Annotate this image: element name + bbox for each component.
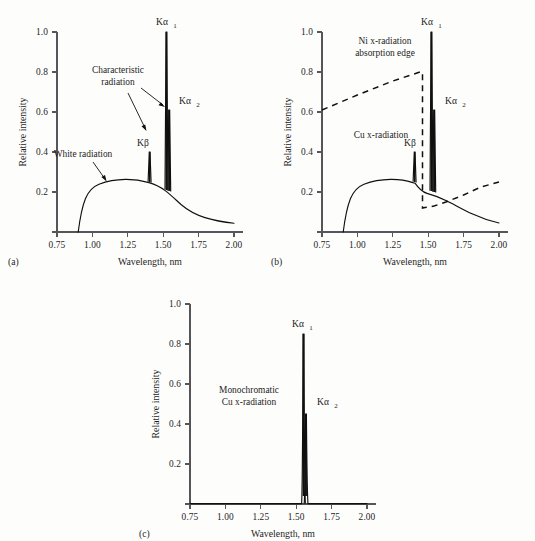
x-tick-label: 0.75	[182, 512, 199, 522]
k-beta-text: Kβ	[404, 137, 416, 148]
panel-b-k-alpha1-peak	[430, 32, 433, 191]
k-alpha2-subscript: 2	[462, 101, 466, 109]
panel-b-x-tick-labels: 0.75 1.00 1.25 1.50 1.75 2.00	[314, 240, 508, 250]
panel-c-k-alpha1-peak	[302, 334, 306, 504]
x-tick-label: 1.00	[84, 240, 101, 250]
panel-b-x-ticks	[322, 232, 499, 237]
panel-b-x-axis-title: Wavelength, nm	[383, 256, 447, 267]
characteristic-line1: Characteristic	[92, 65, 144, 75]
x-tick-label: 1.00	[217, 512, 234, 522]
panel-a-characteristic-radiation-annotation: Characteristic radiation	[92, 65, 165, 131]
y-tick-label: 1.0	[36, 27, 48, 37]
x-tick-label: 1.75	[455, 240, 472, 250]
panel-c-k-alpha2-label: Kα 2	[317, 396, 338, 410]
y-tick-label: 0.8	[169, 339, 181, 349]
x-tick-label: 1.75	[190, 240, 207, 250]
x-tick-label: 1.50	[420, 240, 437, 250]
x-tick-label: 2.00	[359, 512, 376, 522]
panel-b-cu-radiation-label: Cu x-radiation	[354, 130, 409, 140]
ni-edge-line2: absorption edge	[355, 48, 415, 58]
panel-b-k-beta-label: Kβ	[404, 137, 416, 148]
y-tick-label: 0.8	[301, 67, 313, 77]
y-tick-label: 0.4	[301, 147, 313, 157]
panel-c-y-tick-labels: 0.2 0.4 0.6 0.8 1.0	[169, 299, 181, 469]
k-alpha1-text: Kα	[156, 16, 168, 27]
panel-a-characteristic-spectrum: 0.2 0.4 0.6 0.8 1.0 0.75 1.00 1.25 1.50	[0, 0, 268, 272]
mono-line2: Cu x-radiation	[222, 397, 277, 407]
panel-b-k-alpha1-label: Kα 1	[421, 16, 442, 30]
y-tick-label: 0.6	[169, 379, 181, 389]
k-beta-text: Kβ	[137, 137, 149, 148]
panel-c-x-axis-title: Wavelength, nm	[251, 528, 315, 539]
k-alpha1-text: Kα	[292, 318, 304, 329]
panel-a-white-radiation-annotation: White radiation	[54, 149, 113, 182]
panel-a-k-alpha1-peak	[165, 32, 168, 190]
y-tick-label: 0.4	[36, 147, 48, 157]
panel-b-y-ticks	[317, 32, 322, 232]
panel-a-x-ticks	[57, 232, 234, 237]
k-alpha1-subscript: 1	[173, 22, 177, 30]
panel-c-k-alpha1-label: Kα 1	[292, 318, 313, 332]
y-tick-label: 0.8	[36, 67, 48, 77]
x-tick-label: 1.75	[323, 512, 340, 522]
k-alpha2-subscript: 2	[334, 402, 338, 410]
panel-c-monochromatic-annotation: Monochromatic Cu x-radiation	[219, 385, 279, 407]
panel-c-y-ticks	[185, 304, 190, 504]
panel-a-white-radiation-curve	[78, 179, 234, 232]
x-tick-label: 1.50	[155, 240, 172, 250]
x-tick-label: 2.00	[226, 240, 243, 250]
panel-c-letter: (c)	[139, 528, 150, 540]
panel-c-x-tick-labels: 0.75 1.00 1.25 1.50 1.75 2.00	[182, 512, 376, 522]
y-tick-label: 0.6	[36, 107, 48, 117]
y-tick-label: 0.2	[301, 187, 313, 197]
k-alpha1-subscript: 1	[438, 22, 442, 30]
panel-c-x-ticks	[190, 504, 367, 509]
k-alpha2-text: Kα	[179, 95, 191, 106]
panel-a-x-axis-title: Wavelength, nm	[118, 256, 182, 267]
x-tick-label: 1.50	[288, 512, 305, 522]
panel-b-y-tick-labels: 0.2 0.4 0.6 0.8 1.0	[301, 27, 313, 197]
x-tick-label: 1.00	[349, 240, 366, 250]
x-tick-label: 0.75	[49, 240, 66, 250]
xray-spectra-figure: 0.2 0.4 0.6 0.8 1.0 0.75 1.00 1.25 1.50	[0, 0, 535, 541]
x-tick-label: 1.25	[384, 240, 401, 250]
panel-c-y-axis-title: Relative intensity	[150, 369, 161, 438]
panel-b-k-alpha2-label: Kα 2	[445, 95, 466, 109]
panel-b-ni-edge-annotation: Ni x-radiation absorption edge	[355, 36, 415, 58]
y-tick-label: 1.0	[301, 27, 313, 37]
x-tick-label: 1.25	[119, 240, 136, 250]
mono-line1: Monochromatic	[219, 385, 279, 395]
k-alpha2-subscript: 2	[196, 101, 200, 109]
panel-a-y-tick-labels: 0.2 0.4 0.6 0.8 1.0	[36, 27, 48, 197]
y-tick-label: 0.6	[301, 107, 313, 117]
panel-b-k-beta-peak	[413, 152, 416, 182]
panel-a-x-tick-labels: 0.75 1.00 1.25 1.50 1.75 2.00	[49, 240, 243, 250]
characteristic-line2: radiation	[101, 77, 135, 87]
panel-a-k-alpha1-label: Kα 1	[156, 16, 177, 30]
x-tick-label: 0.75	[314, 240, 331, 250]
y-tick-label: 0.2	[169, 459, 181, 469]
k-alpha2-text: Kα	[317, 396, 329, 407]
ni-edge-line1: Ni x-radiation	[359, 36, 412, 46]
x-tick-label: 1.25	[252, 512, 269, 522]
panel-b-y-axis-title: Relative intensity	[282, 97, 293, 166]
panel-a-y-axis-title: Relative intensity	[17, 97, 28, 166]
x-tick-label: 2.00	[491, 240, 508, 250]
y-tick-label: 0.4	[169, 419, 181, 429]
panel-a-y-ticks	[52, 32, 57, 232]
panel-b-filtered-spectrum: 0.2 0.4 0.6 0.8 1.0 0.75 1.00 1.25 1.50 …	[265, 0, 535, 272]
panel-b-cu-radiation-curve	[343, 179, 499, 232]
k-alpha1-subscript: 1	[309, 324, 313, 332]
panel-c-monochromatic-spectrum: 0.2 0.4 0.6 0.8 1.0 0.75 1.00 1.25 1.50 …	[133, 272, 405, 541]
white-radiation-text: White radiation	[54, 149, 113, 159]
panel-b-letter: (b)	[271, 256, 282, 268]
k-alpha1-text: Kα	[421, 16, 433, 27]
k-alpha2-text: Kα	[445, 95, 457, 106]
y-tick-label: 0.2	[36, 187, 48, 197]
panel-a-k-alpha2-label: Kα 2	[179, 95, 200, 109]
panel-a-letter: (a)	[8, 256, 19, 268]
panel-a-k-beta-peak	[148, 152, 151, 182]
y-tick-label: 1.0	[169, 299, 181, 309]
panel-a-k-beta-label: Kβ	[137, 137, 149, 148]
